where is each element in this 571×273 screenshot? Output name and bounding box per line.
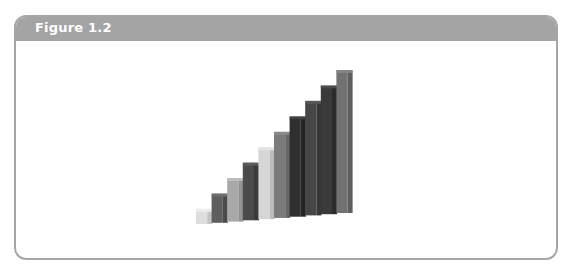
rod-8 <box>305 101 321 216</box>
rod-10 <box>336 70 352 213</box>
rod-4 <box>243 163 259 221</box>
rod-9 <box>321 85 337 214</box>
rod-5 <box>258 147 274 219</box>
rod-1 <box>196 209 212 224</box>
rods-drawing <box>0 0 571 273</box>
rod-3 <box>227 178 243 222</box>
rod-6 <box>274 132 290 218</box>
rod-2 <box>212 193 228 222</box>
rod-7 <box>290 116 306 216</box>
rod-staircase-illustration <box>0 0 571 273</box>
